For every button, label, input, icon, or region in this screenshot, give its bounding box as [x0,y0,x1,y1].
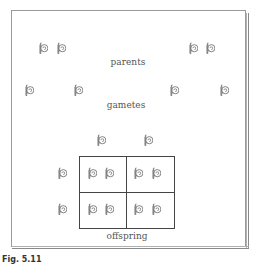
offspring-snail-icon [133,167,143,180]
grid-divider-horizontal [80,192,174,193]
punnett-top-gamete-icon [143,134,153,147]
parent-snail-icon [56,42,66,55]
offspring-snail-icon [104,203,114,216]
punnett-top-gamete-icon [96,134,106,147]
parent-snail-icon [188,42,198,55]
parent-snail-icon [205,42,215,55]
frame-shadow-bottom [12,246,249,249]
frame-shadow-right [246,13,249,249]
punnett-side-gamete-icon [57,203,67,216]
gamete-snail-icon [219,84,229,97]
gamete-snail-icon [169,84,179,97]
parent-snail-icon [38,42,48,55]
offspring-snail-icon [104,167,114,180]
offspring-snail-icon [87,167,97,180]
offspring-snail-icon [151,167,161,180]
gametes-label: gametes [107,100,146,110]
figure-caption: Fig. 5.11 [2,255,42,264]
offspring-snail-icon [151,203,161,216]
offspring-snail-icon [87,203,97,216]
offspring-snail-icon [133,203,143,216]
offspring-label: offspring [107,231,148,241]
gamete-snail-icon [24,84,34,97]
parents-label: parents [111,57,146,67]
punnett-side-gamete-icon [57,167,67,180]
gamete-snail-icon [73,84,83,97]
